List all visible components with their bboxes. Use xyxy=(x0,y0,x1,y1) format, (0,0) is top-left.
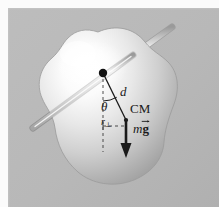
diagram-canvas xyxy=(0,0,219,207)
label-distance-d: d xyxy=(120,85,127,98)
border-top xyxy=(0,0,219,8)
weight-mass-symbol: m xyxy=(133,121,142,136)
border-top-inner-shadow xyxy=(8,8,219,10)
lever-arm-subscript: ⊥ xyxy=(105,121,112,129)
label-angle-theta: θ xyxy=(101,100,107,113)
weight-vector-letter: g xyxy=(142,121,149,136)
label-weight-mg: mg xyxy=(133,122,149,135)
weight-vector-symbol: g xyxy=(142,122,149,135)
vector-arrow-overbar-icon xyxy=(141,119,150,123)
pivot-point xyxy=(99,69,107,77)
label-lever-arm-r-perp: r⊥ xyxy=(101,117,112,129)
label-center-of-mass: CM xyxy=(130,102,150,115)
border-left xyxy=(0,0,8,207)
physics-diagram-figure: d θ CM r⊥ mg xyxy=(0,0,219,207)
border-left-inner-shadow xyxy=(8,8,10,207)
